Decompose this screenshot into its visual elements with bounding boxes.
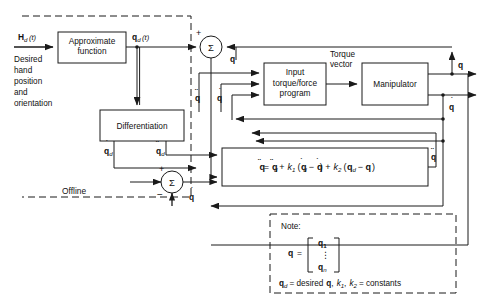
qddot-output-dot-mark: ¨ bbox=[431, 146, 434, 155]
input-desc-line-4: orientation bbox=[14, 99, 53, 108]
qdot-input-dot-mark: ˙ bbox=[219, 87, 222, 96]
note-q-label: q bbox=[288, 248, 293, 258]
q-output-label: q bbox=[458, 60, 463, 70]
offline-label: Offline bbox=[62, 186, 86, 196]
manipulator-block: Manipulator bbox=[362, 63, 428, 105]
block-diagram-canvas: Approximate function Differentiation Inp… bbox=[0, 0, 479, 304]
lower-summer-minus-sign: − bbox=[157, 189, 163, 200]
input-torque-force-program-block: Input torque/force program bbox=[264, 63, 326, 105]
wire-q-feedback-bus bbox=[211, 47, 468, 245]
manipulator-label: Manipulator bbox=[373, 79, 417, 89]
top-summing-junction: Σ bbox=[200, 36, 222, 58]
qdot-d-dot-mark: ˙ bbox=[106, 139, 109, 148]
lower-summer-plus-sign: + bbox=[159, 164, 164, 174]
input-desc-line-1: hand bbox=[14, 66, 33, 75]
note-heading: Note: bbox=[281, 222, 301, 231]
lower-summer-sigma: Σ bbox=[169, 177, 175, 188]
input-torque-label-line3: program bbox=[280, 88, 311, 98]
wire-manipulator-q-output bbox=[428, 52, 476, 76]
input-description: Desired hand position and orientation bbox=[14, 55, 53, 108]
note-box-contents: Note: q = q1 ⋮ qn qd= desiredq,k1,k2= co… bbox=[279, 222, 401, 289]
qdot-output-dot-mark: ˙ bbox=[451, 96, 454, 105]
differentiation-label: Differentiation bbox=[116, 121, 167, 131]
input-desc-line-0: Desired bbox=[14, 55, 43, 64]
approximate-function-label-line2: function bbox=[77, 46, 106, 56]
differentiation-block: Differentiation bbox=[100, 110, 184, 141]
wire-qddot-to-torque-program bbox=[199, 73, 259, 112]
note-line-2: qd= desiredq,k1,k2= constants bbox=[279, 279, 401, 289]
torque-vector-label: Torque vector bbox=[330, 50, 355, 69]
qddot-d-dot-mark: ¨ bbox=[156, 139, 159, 148]
torque-vector-line2: vector bbox=[330, 60, 353, 69]
wire-qdot-to-torque-program bbox=[221, 84, 259, 112]
torque-vector-line1: Torque bbox=[330, 50, 355, 59]
input-desc-line-2: position bbox=[14, 77, 43, 86]
input-torque-label-line1: Input bbox=[286, 67, 305, 77]
top-summer-sigma: Σ bbox=[208, 42, 214, 53]
wire-q-to-torque-program bbox=[232, 95, 259, 120]
input-signal-label: Hd(t) bbox=[18, 32, 37, 43]
note-vector-top: q1 bbox=[318, 238, 327, 249]
wire-top-summer-to-equation bbox=[211, 58, 217, 177]
qd-t-label: qd(t) bbox=[132, 32, 150, 43]
lower-summing-junction: Σ bbox=[161, 171, 183, 193]
input-desc-line-3: and bbox=[14, 88, 28, 97]
qddot-input-dot-mark: ¨ bbox=[195, 87, 198, 96]
top-summer-plus-sign: + bbox=[196, 28, 201, 38]
approximate-function-label-line1: Approximate bbox=[69, 36, 116, 46]
approximate-function-block: Approximate function bbox=[58, 32, 126, 63]
wire-qd-to-differentiation bbox=[137, 47, 140, 105]
note-vector-dots: ⋮ bbox=[321, 250, 330, 260]
note-equals: = bbox=[297, 248, 302, 258]
lower-summer-qdot-dot-mark: ˙ bbox=[191, 186, 194, 195]
input-torque-label-line2: torque/force bbox=[273, 78, 318, 88]
q-feedback-label: q bbox=[230, 54, 235, 64]
note-vector-bottom: qn bbox=[318, 262, 327, 273]
